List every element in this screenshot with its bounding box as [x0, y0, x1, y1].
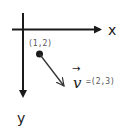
vector-symbol: v — [73, 74, 82, 92]
coordinate-diagram: x y (1,2) → v =(2,3) — [0, 0, 136, 135]
vector-arrow — [40, 54, 65, 86]
y-axis-label: y — [17, 110, 25, 126]
point-label: (1,2) — [28, 39, 52, 48]
vector-value: =(2,3) — [86, 77, 115, 86]
vector-overarrow-icon: → — [72, 63, 80, 74]
x-axis-label: x — [108, 22, 116, 38]
